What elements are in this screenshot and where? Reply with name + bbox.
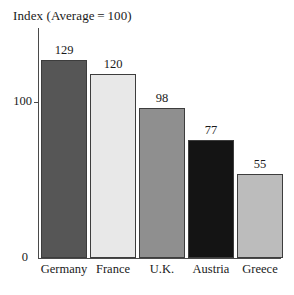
- category-label-greece: Greece: [230, 262, 290, 277]
- bar-greece: [237, 174, 283, 258]
- bar-uk: [139, 108, 185, 258]
- category-axis-labels: Germany France U.K. Austria Greece: [33, 262, 289, 284]
- y-tick-label-0: 0: [22, 250, 28, 265]
- bar-chart: Index (Average = 100) 100 0 129 120 98 7…: [0, 0, 294, 295]
- x-axis-line: [38, 258, 281, 259]
- bar-germany: [41, 60, 87, 258]
- bar-france: [90, 74, 136, 258]
- bar-value-uk: 98: [139, 91, 185, 106]
- bar-value-austria: 77: [188, 123, 234, 138]
- bar-value-germany: 129: [41, 43, 87, 58]
- plot-area: 129 120 98 77 55: [39, 28, 281, 258]
- chart-title: Index (Average = 100): [13, 8, 132, 24]
- bar-austria: [188, 140, 234, 258]
- y-tick-label-100: 100: [13, 94, 32, 109]
- bar-value-greece: 55: [237, 157, 283, 172]
- bar-value-france: 120: [90, 57, 136, 72]
